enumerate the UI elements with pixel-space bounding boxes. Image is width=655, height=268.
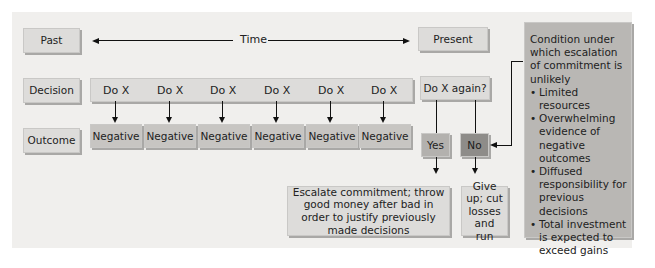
connector — [169, 101, 170, 118]
outcome-label: Outcome — [23, 128, 80, 153]
decision-item: Do X — [157, 84, 183, 97]
condition-list: Limited resources Overwhelming evidence … — [530, 86, 630, 258]
arrow-down-icon — [273, 117, 279, 123]
outcome-box: Negative — [144, 124, 196, 148]
present-label: Present — [418, 27, 488, 51]
condition-item: Overwhelming evidence of negative outcom… — [530, 112, 630, 165]
arrow-down-icon — [472, 168, 478, 174]
connector — [495, 145, 512, 146]
condition-item: Limited resources — [530, 86, 630, 112]
connector — [330, 101, 331, 118]
connector — [222, 101, 223, 118]
arrow-down-icon — [219, 117, 225, 123]
decision-bar — [90, 78, 413, 102]
past-label: Past — [23, 28, 80, 53]
decision-label: Decision — [23, 78, 80, 103]
decision-item: Do X — [371, 84, 397, 97]
connector — [475, 100, 476, 133]
condition-text: Condition under which escalation of comm… — [530, 33, 630, 257]
connector — [115, 101, 116, 118]
no-box: No — [460, 133, 489, 157]
escalate-box: Escalate commitment; throw good money af… — [287, 186, 450, 236]
time-line-left — [98, 40, 233, 41]
arrow-right-icon — [403, 38, 410, 44]
arrow-left-icon — [490, 142, 497, 148]
connector — [511, 61, 512, 146]
decision-item: Do X — [264, 84, 290, 97]
decision-item: Do X — [318, 84, 344, 97]
outcome-box: Negative — [198, 124, 250, 148]
connector — [383, 101, 384, 118]
connector — [276, 101, 277, 118]
arrow-down-icon — [327, 117, 333, 123]
give-up-box: Give up; cut losses and run — [461, 186, 508, 236]
decision-item: Do X — [210, 84, 236, 97]
arrow-left-icon — [92, 38, 99, 44]
condition-item: Diffused responsibility for previous dec… — [530, 165, 630, 218]
do-x-again-box: Do X again? — [420, 76, 490, 100]
condition-title: Condition under which escalation of comm… — [530, 33, 630, 86]
arrow-down-icon — [380, 117, 386, 123]
outcome-box: Negative — [252, 124, 304, 148]
connector — [511, 61, 523, 62]
yes-box: Yes — [421, 133, 450, 157]
arrow-down-icon — [112, 117, 118, 123]
time-line-right — [268, 40, 403, 41]
condition-item: Total investment is expected to exceed g… — [530, 218, 630, 258]
arrow-down-icon — [166, 117, 172, 123]
outcome-box: Negative — [306, 124, 358, 148]
outcome-box: Negative — [359, 124, 411, 148]
decision-item: Do X — [103, 84, 129, 97]
connector — [436, 100, 437, 133]
time-label: Time — [240, 33, 267, 46]
outcome-box: Negative — [90, 124, 142, 148]
arrow-down-icon — [433, 168, 439, 174]
